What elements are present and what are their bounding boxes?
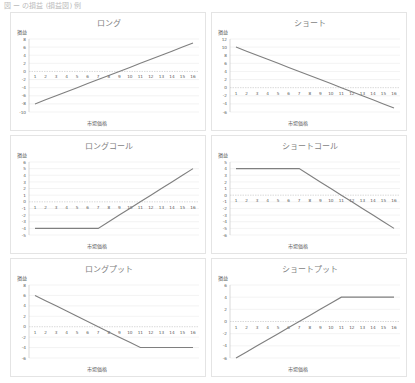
x-tick-label: 4 (266, 325, 269, 330)
y-tick-label: -6 (223, 233, 228, 238)
x-tick-label: 16 (391, 91, 397, 96)
chart-title: ロングコール (85, 141, 133, 151)
y-tick-label: -8 (22, 101, 27, 106)
profit-loss-line (236, 47, 394, 108)
y-tick-label: 3 (23, 180, 26, 185)
x-tick-label: 9 (118, 330, 121, 335)
y-tick-label: -6 (223, 356, 228, 361)
chart-title: ロング (97, 18, 121, 28)
x-tick-label: 11 (339, 91, 345, 96)
y-tick-label: -6 (22, 93, 27, 98)
y-tick-label: 3 (224, 173, 227, 178)
x-tick-label: 2 (245, 198, 248, 203)
x-tick-label: 8 (308, 325, 311, 330)
y-tick-label: 0 (224, 193, 227, 198)
x-tick-label: 5 (76, 205, 79, 210)
x-tick-label: 2 (44, 205, 47, 210)
x-tick-label: 8 (308, 198, 311, 203)
y-tick-label: 0 (224, 85, 227, 90)
y-tick-label: -2 (223, 331, 228, 336)
chart-short: ショート損益121086420-2-4-61234567891011121314… (211, 12, 407, 131)
x-tick-label: 11 (138, 205, 144, 210)
y-tick-label: 2 (224, 180, 227, 185)
x-tick-label: 8 (107, 205, 110, 210)
x-tick-label: 15 (381, 91, 387, 96)
x-tick-label: 12 (148, 205, 154, 210)
x-tick-label: 10 (328, 325, 334, 330)
x-tick-label: 2 (245, 91, 248, 96)
chart-long-put: ロングプット損益86420-2-4-6123456789101112131415… (10, 258, 206, 377)
x-tick-label: 4 (65, 74, 68, 79)
x-tick-label: 6 (287, 198, 290, 203)
x-tick-label: 9 (319, 91, 322, 96)
x-tick-label: 14 (370, 325, 376, 330)
y-tick-label: -10 (19, 110, 26, 115)
x-tick-label: 3 (256, 325, 259, 330)
x-tick-label: 10 (328, 198, 334, 203)
x-tick-label: 15 (180, 74, 186, 79)
y-tick-label: -4 (223, 101, 228, 106)
y-tick-label: 6 (23, 160, 26, 165)
x-tick-label: 12 (148, 330, 154, 335)
y-tick-label: -6 (22, 356, 27, 361)
y-tick-label: 4 (23, 53, 26, 58)
x-tick-label: 13 (360, 325, 366, 330)
y-tick-label: 2 (224, 307, 227, 312)
y-axis-label: 損益 (218, 275, 228, 282)
x-axis-label: 市場価格 (288, 120, 308, 127)
x-tick-label: 6 (86, 74, 89, 79)
y-tick-label: -3 (22, 219, 27, 224)
x-tick-label: 9 (319, 198, 322, 203)
x-tick-label: 4 (266, 91, 269, 96)
x-tick-label: 7 (97, 330, 100, 335)
y-tick-label: 5 (23, 166, 26, 171)
x-tick-label: 14 (370, 198, 376, 203)
y-tick-label: -2 (223, 93, 228, 98)
y-tick-label: 2 (23, 186, 26, 191)
y-tick-label: 6 (23, 45, 26, 50)
chart-svg: ショートコール損益543210-1-2-3-4-5-61234567891011… (212, 136, 408, 255)
x-tick-label: 3 (256, 91, 259, 96)
x-tick-label: 1 (235, 198, 238, 203)
x-tick-label: 4 (266, 198, 269, 203)
x-tick-label: 7 (97, 205, 100, 210)
chart-svg: ロングコール損益6543210-1-2-3-4-5123456789101112… (11, 136, 207, 255)
x-tick-label: 12 (148, 74, 154, 79)
y-axis-label: 損益 (17, 275, 27, 282)
x-tick-label: 1 (235, 325, 238, 330)
y-tick-label: 0 (224, 319, 227, 324)
x-axis-label: 市場価格 (87, 366, 107, 373)
y-tick-label: -6 (223, 110, 228, 115)
x-tick-label: 9 (118, 205, 121, 210)
x-tick-label: 15 (180, 330, 186, 335)
chart-title: ショートコール (282, 142, 338, 151)
chart-short-put: ショートプット損益6420-2-4-6123456789101112131415… (211, 258, 407, 377)
x-tick-label: 7 (298, 91, 301, 96)
y-tick-label: 4 (23, 173, 26, 178)
x-axis-label: 市場価格 (87, 120, 107, 127)
y-tick-label: 5 (224, 160, 227, 165)
x-tick-label: 6 (287, 91, 290, 96)
y-tick-label: -2 (22, 77, 27, 82)
y-tick-label: 1 (23, 193, 26, 198)
y-tick-label: -4 (22, 85, 27, 90)
y-tick-label: 2 (23, 61, 26, 66)
x-tick-label: 16 (391, 198, 397, 203)
x-tick-label: 7 (298, 198, 301, 203)
y-tick-label: -4 (22, 345, 27, 350)
x-tick-label: 2 (245, 325, 248, 330)
y-tick-label: -2 (22, 213, 27, 218)
x-tick-label: 13 (159, 205, 165, 210)
x-tick-label: 5 (76, 74, 79, 79)
y-tick-label: 4 (224, 295, 227, 300)
y-tick-label: 4 (224, 166, 227, 171)
x-tick-label: 3 (55, 330, 58, 335)
y-tick-label: 10 (222, 45, 228, 50)
x-tick-label: 9 (319, 325, 322, 330)
figure-caption: 図 ー の損益 (損益図) 例 (4, 0, 81, 10)
x-tick-label: 1 (34, 330, 37, 335)
chart-short-call: ショートコール損益543210-1-2-3-4-5-61234567891011… (211, 135, 407, 254)
x-tick-label: 15 (381, 198, 387, 203)
y-tick-label: -2 (223, 206, 228, 211)
x-tick-label: 1 (34, 205, 37, 210)
